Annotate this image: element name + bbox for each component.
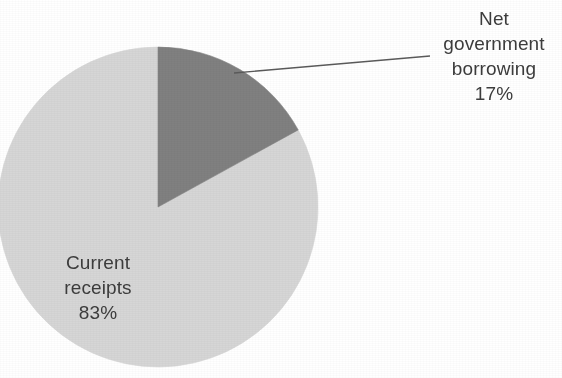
pie-label-current-receipts-line-1: Current bbox=[28, 250, 168, 275]
pie-label-net-government-borrowing-line-3: borrowing bbox=[408, 56, 562, 81]
pie-label-net-government-borrowing-value: 17% bbox=[408, 81, 562, 106]
pie-label-current-receipts-line-2: receipts bbox=[28, 275, 168, 300]
leader-line-icon bbox=[234, 56, 430, 73]
pie-label-current-receipts-value: 83% bbox=[28, 300, 168, 325]
pie-label-net-government-borrowing-line-2: government bbox=[408, 31, 562, 56]
pie-label-current-receipts: Current receipts 83% bbox=[28, 250, 168, 325]
pie-label-net-government-borrowing-line-1: Net bbox=[408, 6, 562, 31]
pie-chart-figure: Net government borrowing 17% Current rec… bbox=[0, 0, 562, 378]
pie-label-net-government-borrowing: Net government borrowing 17% bbox=[408, 6, 562, 106]
